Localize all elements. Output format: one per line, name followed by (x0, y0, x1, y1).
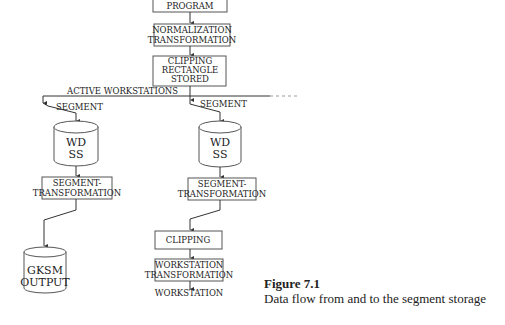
svg-text:CLIPPING: CLIPPING (166, 235, 211, 245)
svg-text:TRANSFORMATION: TRANSFORMATION (148, 35, 237, 45)
left-wd-ss-storage: WD SS (54, 121, 98, 166)
program-box: PROGRAM (153, 0, 227, 12)
workstation-transformation-box: WORKSTATION TRANSFORMATION (145, 259, 234, 281)
figure-caption: Figure 7.1 Data flow from and to the seg… (264, 276, 486, 306)
left-segment-transformation-box: SEGMENT- TRANSFORMATION (33, 177, 122, 199)
figure-description: Data flow from and to the segment storag… (264, 291, 486, 306)
svg-text:WORKSTATION: WORKSTATION (155, 260, 224, 270)
clipping-rectangle-stored-box: CLIPPING RECTANGLE STORED (153, 56, 226, 86)
active-workstations-label: ACTIVE WORKSTATIONS (66, 86, 178, 96)
right-segment-transformation-box: SEGMENT- TRANSFORMATION (178, 178, 267, 200)
svg-text:PROGRAM: PROGRAM (166, 1, 213, 11)
svg-text:TRANSFORMATION: TRANSFORMATION (178, 189, 267, 199)
svg-text:SEGMENT-: SEGMENT- (198, 179, 247, 189)
svg-text:OUTPUT: OUTPUT (20, 276, 70, 289)
svg-text:SS: SS (69, 148, 84, 161)
left-segment-label: SEGMENT (56, 102, 103, 112)
svg-text:TRANSFORMATION: TRANSFORMATION (145, 270, 234, 280)
svg-text:TRANSFORMATION: TRANSFORMATION (33, 188, 122, 198)
figure-title: Figure 7.1 (264, 276, 486, 291)
normalization-transformation-box: NORMALIZATION TRANSFORMATION (148, 24, 237, 46)
svg-text:STORED: STORED (171, 74, 209, 84)
svg-text:SEGMENT-: SEGMENT- (53, 178, 102, 188)
svg-text:SS: SS (213, 148, 228, 161)
clipping-box: CLIPPING (155, 231, 222, 249)
svg-text:NORMALIZATION: NORMALIZATION (152, 25, 232, 35)
right-wd-ss-storage: WD SS (199, 121, 241, 167)
workstation-label: WORKSTATION (155, 288, 224, 298)
right-segment-label: SEGMENT (200, 99, 247, 109)
gksm-output-storage: GKSM OUTPUT (20, 247, 70, 293)
